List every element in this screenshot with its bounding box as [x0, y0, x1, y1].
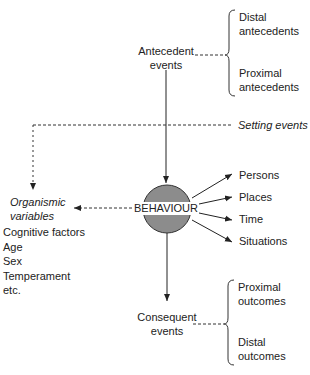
distal-antecedents-line2: antecedents — [239, 24, 299, 38]
consequent-events-label: Consequent events — [128, 310, 206, 338]
distal-outcomes-line2: outcomes — [238, 349, 286, 363]
antecedent-events-label: Antecedent events — [128, 44, 204, 72]
organismic-variables-title: Organismic variables — [10, 195, 66, 223]
organismic-item: Cognitive factors — [3, 225, 85, 240]
setting-events-label: Setting events — [238, 118, 308, 132]
proximal-outcomes-line2: outcomes — [238, 294, 286, 308]
context-time: Time — [239, 212, 263, 226]
context-places: Places — [239, 190, 272, 204]
organismic-item: etc. — [3, 283, 85, 298]
organismic-title-line1: Organismic — [10, 195, 66, 209]
proximal-outcomes-label: Proximal outcomes — [238, 280, 286, 308]
consequent-line1: Consequent — [128, 310, 206, 324]
organismic-title-line2: variables — [10, 209, 66, 223]
antecedent-line1: Antecedent — [128, 44, 204, 58]
distal-antecedents-line1: Distal — [239, 10, 299, 24]
consequent-brace — [224, 280, 234, 365]
proximal-outcomes-line1: Proximal — [238, 280, 286, 294]
organismic-item: Sex — [3, 254, 85, 269]
proximal-antecedents-label: Proximal antecedents — [239, 66, 299, 94]
organismic-variables-list: Cognitive factors Age Sex Temperament et… — [3, 225, 85, 298]
arrow-places — [199, 197, 232, 204]
arrow-time — [199, 213, 232, 220]
antecedent-brace — [225, 10, 235, 96]
proximal-antecedents-line2: antecedents — [239, 80, 299, 94]
arrow-persons — [192, 174, 232, 198]
distal-outcomes-label: Distal outcomes — [238, 335, 286, 363]
proximal-antecedents-line1: Proximal — [239, 66, 299, 80]
organismic-item: Age — [3, 240, 85, 255]
distal-outcomes-line1: Distal — [238, 335, 286, 349]
distal-antecedents-label: Distal antecedents — [239, 10, 299, 38]
consequent-line2: events — [128, 324, 206, 338]
context-persons: Persons — [239, 168, 279, 182]
context-situations: Situations — [239, 234, 287, 248]
organismic-item: Temperament — [3, 269, 85, 284]
antecedent-line2: events — [128, 58, 204, 72]
arrow-situations — [192, 220, 232, 242]
behaviour-label: BEHAVIOUR — [133, 202, 199, 215]
